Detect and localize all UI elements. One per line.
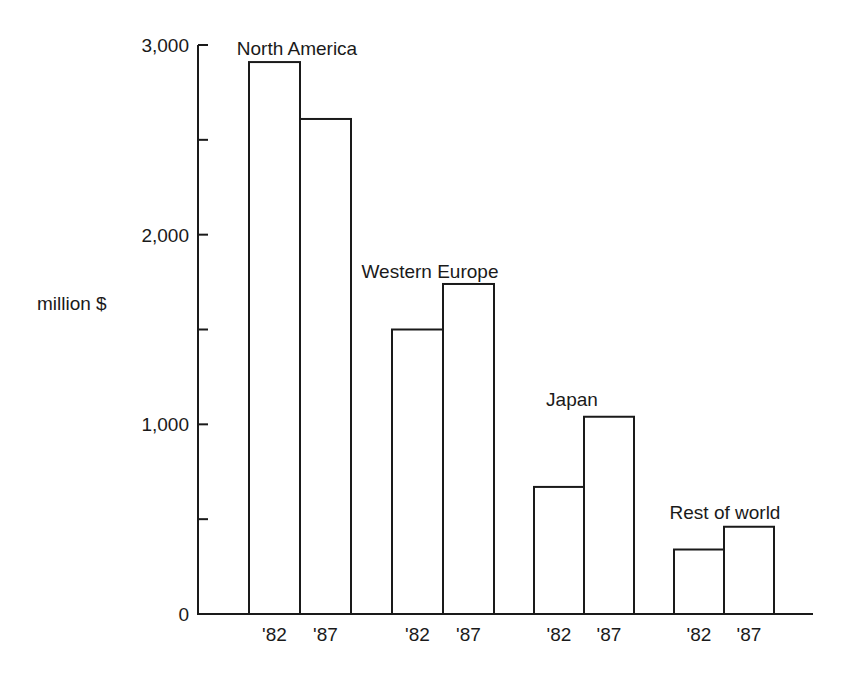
x-tick-label: '87 bbox=[737, 624, 762, 645]
bar-group-rest-of-world bbox=[674, 527, 774, 614]
x-tick-label: '87 bbox=[456, 624, 481, 645]
group-label: Japan bbox=[546, 389, 598, 410]
y-tick-label: 2,000 bbox=[141, 225, 189, 246]
group-label: Rest of world bbox=[670, 502, 781, 523]
bar bbox=[724, 527, 774, 614]
bar bbox=[534, 487, 584, 614]
bar bbox=[300, 119, 351, 614]
bar-group-western-europe bbox=[392, 284, 494, 614]
bar bbox=[443, 284, 494, 614]
y-tick-label: 0 bbox=[178, 604, 189, 625]
bars bbox=[249, 62, 774, 614]
y-axis-label: million $ bbox=[37, 293, 107, 314]
bar-chart: 01,0002,0003,000million $'82'87North Ame… bbox=[0, 0, 848, 685]
y-tick-label: 3,000 bbox=[141, 35, 189, 56]
x-tick-label: '82 bbox=[262, 624, 287, 645]
x-tick-label: '82 bbox=[687, 624, 712, 645]
x-tick-label: '87 bbox=[597, 624, 622, 645]
y-tick-label: 1,000 bbox=[141, 414, 189, 435]
x-tick-label: '82 bbox=[405, 624, 430, 645]
bar-group-north-america bbox=[249, 62, 351, 614]
group-label: Western Europe bbox=[362, 261, 499, 282]
x-tick-label: '87 bbox=[313, 624, 338, 645]
x-tick-label: '82 bbox=[547, 624, 572, 645]
bar-group-japan bbox=[534, 417, 634, 614]
bar bbox=[249, 62, 300, 614]
group-label: North America bbox=[237, 38, 358, 59]
bar bbox=[584, 417, 634, 614]
bar bbox=[674, 550, 724, 614]
bar bbox=[392, 330, 443, 615]
